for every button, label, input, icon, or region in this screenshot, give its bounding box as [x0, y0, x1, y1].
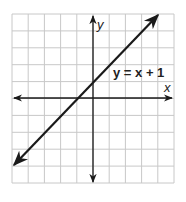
- y-axis-label: y: [96, 17, 105, 32]
- equation-label: y = x + 1: [113, 65, 164, 80]
- line-y-equals-x-plus-1: [14, 15, 158, 165]
- coordinate-plane: y x y = x + 1: [0, 0, 186, 202]
- x-axis-label: x: [163, 80, 171, 95]
